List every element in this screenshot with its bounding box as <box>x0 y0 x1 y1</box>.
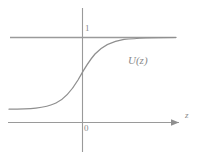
sigmoid-curve <box>9 38 176 110</box>
x-axis-arrowhead <box>171 119 179 125</box>
plot-canvas <box>0 0 197 160</box>
y-tick-label-one: 1 <box>85 24 90 33</box>
x-axis-label: z <box>185 111 189 120</box>
curve-label-u-of-z: U(z) <box>128 55 148 66</box>
figure-sigmoid-plot: 1 0 U(z) z <box>0 0 197 160</box>
origin-label: 0 <box>84 124 89 133</box>
